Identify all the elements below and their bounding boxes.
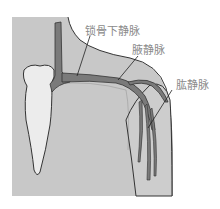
anatomy-diagram: 锁骨下静脉 腋静脉 肱静脉 (0, 0, 220, 209)
label-subclavian-vein: 锁骨下静脉 (85, 26, 140, 38)
label-brachial-vein: 肱静脉 (176, 80, 209, 92)
label-axillary-vein: 腋静脉 (132, 45, 165, 57)
